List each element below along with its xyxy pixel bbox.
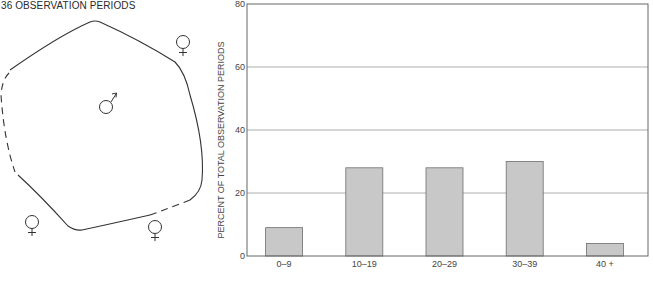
x-tick-label: 10–19 <box>352 259 377 269</box>
x-tick-label: 20–29 <box>432 259 457 269</box>
bar-chart: 020406080 0–910–1920–2930–3940 + PERCENT… <box>0 0 653 288</box>
x-tick-label: 30–39 <box>512 259 537 269</box>
y-axis-label: PERCENT OF TOTAL OBSERVATION PERIODS <box>216 41 226 238</box>
y-tick-label: 40 <box>235 125 245 135</box>
bar <box>586 243 623 256</box>
y-tick-label: 60 <box>235 62 245 72</box>
y-tick-label: 0 <box>240 251 245 261</box>
y-tick-label: 80 <box>235 0 245 9</box>
bars <box>266 162 624 257</box>
y-tick-label: 20 <box>235 188 245 198</box>
y-tick-labels: 020406080 <box>235 0 245 261</box>
x-tick-label: 0–9 <box>277 259 292 269</box>
x-tick-label: 40 + <box>596 259 614 269</box>
bar <box>426 168 463 256</box>
x-tick-labels: 0–910–1920–2930–3940 + <box>277 259 614 269</box>
bar <box>346 168 383 256</box>
bar <box>266 228 303 256</box>
bar <box>506 162 543 257</box>
